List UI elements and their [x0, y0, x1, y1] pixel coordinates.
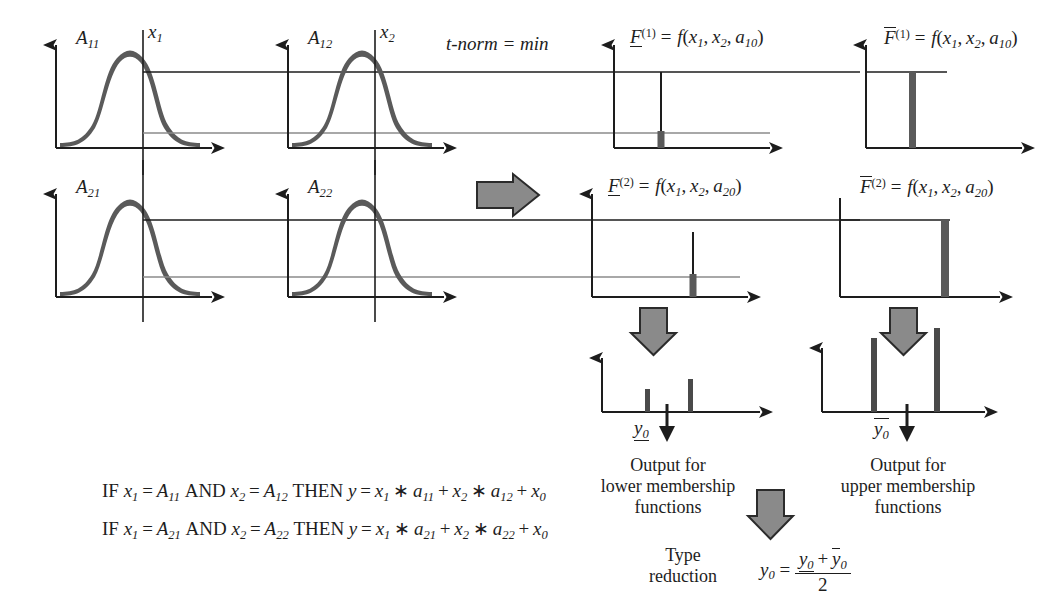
label-A22: A22: [308, 177, 332, 200]
firing-bar-F1-lower: [658, 131, 665, 148]
centroid-arrow-lower: [659, 404, 675, 442]
label-F1-upper: F(1) = f(x1, x2, a10): [884, 27, 1018, 51]
label-A12: A12: [308, 28, 332, 51]
caption-upper-output: Output for upper membership functions: [828, 455, 988, 519]
output-singleton-lower-1: [645, 389, 650, 412]
firing-bar-F2-lower: [690, 274, 697, 297]
firing-bar-F1-upper: [909, 72, 916, 148]
label-input-x1-row1: x1: [148, 22, 163, 45]
block-arrow-lower-defuzz: [631, 308, 676, 355]
label-F2-upper: F(2) = f(x1, x2, a20): [860, 176, 994, 200]
output-singleton-upper-1: [871, 338, 877, 412]
label-input-x2-row1: x2: [380, 22, 395, 45]
block-arrow-fire: [477, 174, 539, 216]
caption-upper-line3: functions: [828, 497, 988, 518]
label-F1-lower: F(1) = f(x1, x2, a10): [630, 27, 764, 50]
caption-upper-line1: Output for: [828, 455, 988, 476]
plot-F1-upper: [866, 45, 1022, 148]
plot-F2-lower: [592, 194, 748, 297]
output-singleton-upper-2: [934, 328, 940, 412]
caption-type-reduction: Type reduction: [628, 545, 738, 587]
formula-type-reduction: y0 = y0 + y02: [760, 548, 851, 595]
label-t-norm: t-norm = min: [446, 34, 549, 54]
plot-F2-upper: [840, 198, 1000, 297]
membership-band-A22: [292, 200, 432, 297]
caption-lower-output: Output for lower membership functions: [588, 455, 748, 519]
label-F2-lower: F(2) = f(x1, x2, a20): [608, 176, 742, 199]
caption-upper-line2: upper membership: [828, 476, 988, 497]
rule-2: IF x1 = A21 AND x2 = A22 THEN y = x1 ∗ a…: [102, 519, 548, 542]
plot-A12: [288, 30, 444, 175]
label-A21: A21: [76, 177, 100, 200]
firing-bar-F2-upper: [941, 220, 949, 297]
label-y0-lower: y0: [634, 418, 649, 441]
type-reduction-line2: reduction: [628, 566, 738, 587]
plot-lower-output: [602, 358, 760, 442]
figure-canvas: A11 x1 A12 x2 t-norm = min F(1) = f(x1, …: [0, 0, 1043, 608]
fraction-numerator: y0 + y0: [795, 548, 851, 574]
block-arrow-type-reduction: [748, 490, 793, 539]
membership-band-A21: [60, 200, 200, 297]
label-y0-upper: y0: [874, 418, 889, 441]
label-A11: A11: [76, 28, 99, 51]
caption-lower-line3: functions: [588, 497, 748, 518]
type-reduction-line1: Type: [628, 545, 738, 566]
output-singleton-lower-2: [688, 379, 693, 412]
centroid-arrow-upper: [899, 404, 915, 442]
caption-lower-line2: lower membership: [588, 476, 748, 497]
rule-1: IF x1 = A11 AND x2 = A12 THEN y = x1 ∗ a…: [102, 481, 546, 504]
caption-lower-line1: Output for: [588, 455, 748, 476]
type-reduction-fraction: y0 + y02: [795, 548, 851, 595]
fraction-denominator: 2: [795, 574, 851, 595]
block-arrow-upper-defuzz: [881, 308, 926, 355]
